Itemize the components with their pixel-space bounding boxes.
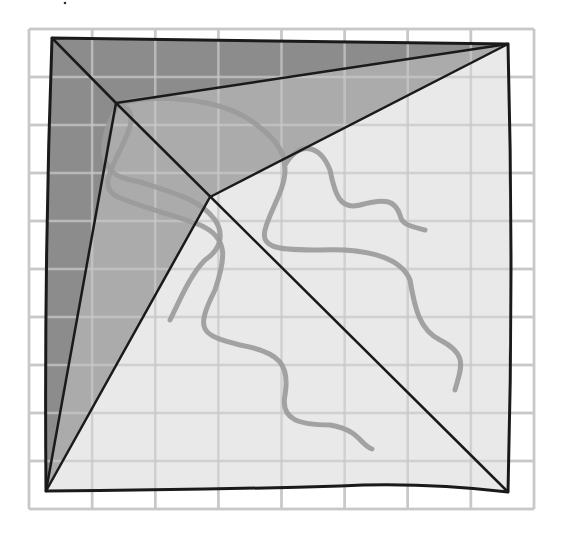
folded-square-diagram (0, 0, 562, 536)
diagram-canvas (0, 0, 562, 536)
top-mark (64, 2, 67, 5)
